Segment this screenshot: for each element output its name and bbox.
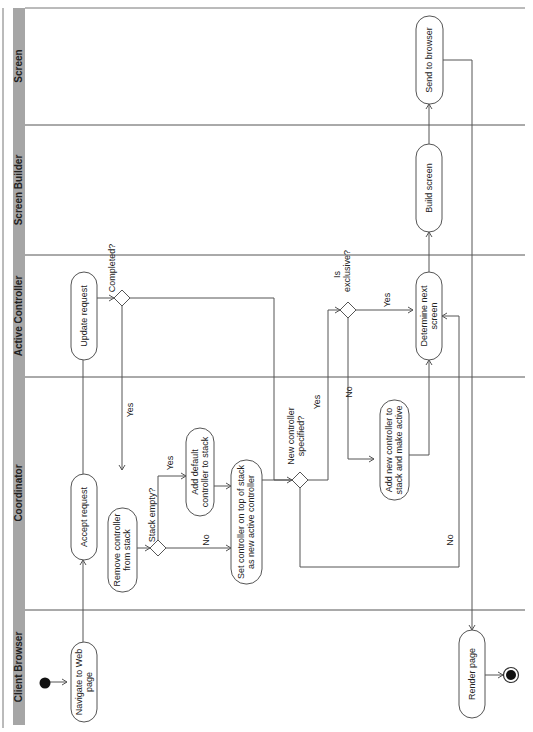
svg-text:Add default: Add default	[190, 449, 200, 495]
svg-text:Build screen: Build screen	[424, 163, 434, 213]
svg-text:Render page: Render page	[467, 648, 477, 700]
decision-stack-empty: Stack empty?	[147, 488, 166, 556]
activity-diagram: Screen Screen Builder Active Controller …	[0, 0, 533, 732]
svg-text:Yes: Yes	[125, 402, 135, 417]
activity-navigate-to-web-page: Navigate to Web page	[71, 642, 97, 722]
lane-header-band	[13, 8, 25, 725]
start-node-icon	[40, 678, 51, 689]
edge-add-new-determine	[409, 360, 429, 455]
svg-text:exclusive?: exclusive?	[342, 250, 352, 292]
lane-title-screen: Screen	[13, 49, 24, 82]
decision-completed: Completed?	[107, 244, 130, 306]
svg-text:Yes: Yes	[312, 394, 322, 409]
svg-text:page: page	[84, 672, 94, 692]
svg-text:from stack: from stack	[122, 529, 132, 571]
lane-title-client-browser: Client Browser	[13, 632, 24, 703]
svg-text:No: No	[201, 534, 211, 546]
activity-add-default-controller: Add default controller to stack	[186, 428, 214, 516]
svg-text:controller to stack: controller to stack	[200, 436, 210, 507]
svg-text:Yes: Yes	[165, 455, 175, 470]
svg-text:Yes: Yes	[382, 292, 392, 307]
guard-new-specified-no: No	[445, 534, 455, 546]
activity-add-new-controller: Add new controller to stack and make act…	[380, 400, 409, 500]
svg-text:Determine next: Determine next	[419, 285, 429, 347]
guard-stack-empty-yes: Yes	[165, 455, 175, 470]
end-node-icon	[504, 668, 519, 683]
lane-title-active-controller: Active Controller	[13, 276, 24, 357]
svg-text:No: No	[445, 534, 455, 546]
activity-set-controller-on-top: Set controller on top of stack as new ac…	[231, 460, 262, 584]
activity-build-screen: Build screen	[416, 144, 442, 232]
svg-text:Is: Is	[332, 270, 342, 278]
svg-text:Active Controller: Active Controller	[13, 276, 24, 357]
svg-text:screen: screen	[429, 302, 439, 329]
svg-text:Completed?: Completed?	[107, 244, 117, 293]
svg-text:stack and make active: stack and make active	[394, 405, 404, 494]
svg-text:Screen: Screen	[13, 49, 24, 82]
guard-stack-empty-no: No	[201, 534, 211, 546]
activity-remove-controller: Remove controller from stack	[108, 508, 137, 592]
activity-render-page: Render page	[459, 630, 485, 718]
activity-determine-next-screen: Determine next screen	[416, 272, 442, 360]
lane-title-screen-builder: Screen Builder	[13, 155, 24, 226]
guard-completed-yes: Yes	[125, 402, 135, 417]
edge-stack-empty-yes	[158, 476, 186, 540]
decision-new-controller-specified: New controller specified?	[286, 407, 308, 488]
svg-text:Set controller on top of stack: Set controller on top of stack	[236, 464, 246, 579]
svg-text:Client Browser: Client Browser	[13, 632, 24, 703]
svg-text:Screen Builder: Screen Builder	[13, 155, 24, 226]
svg-text:No: No	[344, 386, 354, 398]
svg-text:Update request: Update request	[79, 285, 89, 347]
svg-text:specified?: specified?	[296, 416, 306, 457]
guard-is-exclusive-no: No	[344, 386, 354, 398]
svg-text:Accept request: Accept request	[79, 486, 89, 547]
svg-text:Add new controller to: Add new controller to	[384, 408, 394, 493]
svg-text:as new active controller: as new active controller	[246, 475, 256, 569]
lane-title-coordinator: Coordinator	[13, 464, 24, 521]
svg-text:Stack empty?: Stack empty?	[147, 488, 157, 543]
guard-is-exclusive-yes: Yes	[382, 292, 392, 307]
activity-send-to-browser: Send to browser	[416, 16, 443, 104]
activity-accept-request: Accept request	[71, 474, 97, 560]
svg-text:New controller: New controller	[286, 407, 296, 465]
svg-text:Send to browser: Send to browser	[424, 27, 434, 93]
activity-update-request: Update request	[71, 272, 97, 360]
svg-text:Coordinator: Coordinator	[13, 464, 24, 521]
svg-text:Navigate to Web: Navigate to Web	[74, 649, 84, 715]
guard-new-specified-yes: Yes	[312, 394, 322, 409]
svg-text:Remove controller: Remove controller	[112, 513, 122, 586]
